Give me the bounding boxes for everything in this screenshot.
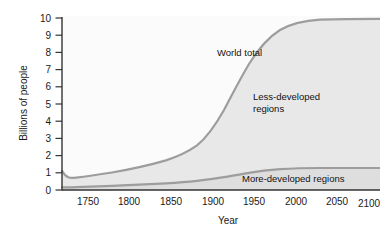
y-tick-label-10: 10	[40, 13, 52, 24]
population-chart-figure: 10 9 8 7 6 5 4 3 2 1 0 1750 1800 1850 19…	[0, 0, 380, 239]
annotation-world-total: World total	[217, 47, 262, 58]
y-tick-label-8: 8	[45, 47, 51, 58]
y-axis-tick-labels: 10 9 8 7 6 5 4 3 2 1 0	[40, 13, 52, 196]
x-tick-label-1850: 1850	[160, 196, 183, 207]
y-tick-label-2: 2	[45, 150, 51, 161]
y-tick-label-5: 5	[45, 99, 51, 110]
y-axis-ticks	[56, 18, 63, 190]
y-tick-label-9: 9	[45, 30, 51, 41]
y-tick-label-4: 4	[45, 116, 51, 127]
y-axis-title: Billions of people	[18, 65, 29, 141]
x-tick-label-1950: 1950	[243, 196, 266, 207]
x-tick-label-2100: 2100	[358, 198, 380, 209]
chart-canvas: 10 9 8 7 6 5 4 3 2 1 0 1750 1800 1850 19…	[0, 0, 380, 239]
y-tick-label-1: 1	[45, 167, 51, 178]
y-tick-label-3: 3	[45, 133, 51, 144]
y-tick-label-6: 6	[45, 81, 51, 92]
x-tick-label-1800: 1800	[118, 196, 141, 207]
y-tick-label-7: 7	[45, 64, 51, 75]
y-tick-label-0: 0	[45, 185, 51, 196]
x-tick-label-2050: 2050	[326, 196, 349, 207]
x-tick-label-2000: 2000	[285, 196, 308, 207]
annotation-more-developed-regions: More-developed regions	[242, 173, 345, 184]
x-tick-label-1900: 1900	[202, 196, 225, 207]
x-tick-label-1750: 1750	[77, 196, 100, 207]
annotation-less-developed-regions-line2: regions	[253, 103, 284, 114]
x-axis-tick-labels: 1750 1800 1850 1900 1950 2000 2050 2100	[77, 196, 380, 209]
x-axis-title: Year	[218, 215, 239, 226]
annotation-less-developed-regions-line1: Less-developed	[253, 91, 320, 102]
